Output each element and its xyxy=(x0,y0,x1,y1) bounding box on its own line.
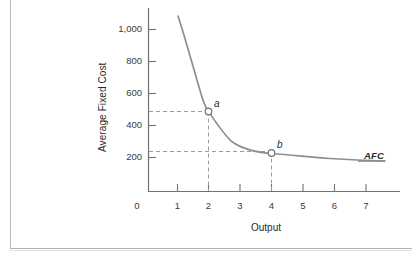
x-tick-label-0: 0 xyxy=(134,201,139,211)
x-tick-label-1: 1 xyxy=(175,201,180,211)
data-point-label-b: b xyxy=(277,139,283,150)
y-tick-label-400: 400 xyxy=(104,120,142,130)
x-tick-label-2: 2 xyxy=(206,201,211,211)
x-axis-title: Output xyxy=(251,222,281,233)
x-tick-label-5: 5 xyxy=(300,201,305,211)
data-point-marker-b xyxy=(268,150,275,157)
y-tick-label-1000: 1,000 xyxy=(104,24,142,34)
figure-container: 1,000 800 600 400 200 0 1 2 3 4 5 6 7 Av… xyxy=(0,0,412,254)
x-tick-label-7: 7 xyxy=(363,201,368,211)
x-tick-label-4: 4 xyxy=(269,201,274,211)
y-axis-title: Average Fixed Cost xyxy=(97,63,108,152)
y-tick-label-600: 600 xyxy=(104,88,142,98)
y-tick-label-200: 200 xyxy=(104,152,142,162)
afc-curve-label: AFC xyxy=(364,150,384,161)
data-point-label-a: a xyxy=(214,98,220,109)
x-tick-label-3: 3 xyxy=(237,201,242,211)
y-axis-ticks xyxy=(149,30,157,158)
guide-lines-point-b xyxy=(149,152,272,192)
data-point-marker-a xyxy=(205,108,212,115)
y-tick-label-800: 800 xyxy=(104,56,142,66)
afc-chart-plot xyxy=(0,0,412,254)
x-tick-label-6: 6 xyxy=(332,201,337,211)
